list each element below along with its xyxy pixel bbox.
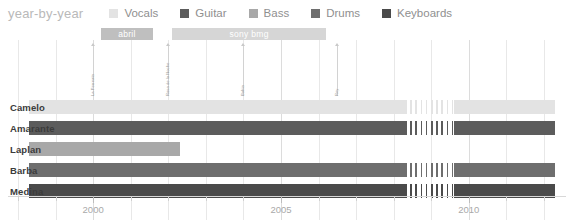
timeline-row[interactable]: Camelo [0,100,574,114]
axis-tick-1998 [18,196,19,201]
era-banner-sony-bmg[interactable]: sony bmg [172,28,326,40]
bar-segment [405,100,454,114]
legend-item-bass[interactable]: Bass [249,7,290,19]
chart-header: year-by-year Vocals Guitar Bass Drums Ke… [0,0,574,26]
bar-segment [29,163,405,177]
event-label: Rosa de la Noche [165,63,170,96]
bar-segment [29,121,405,135]
event-marker-Bahia[interactable]: Bahia [243,46,244,96]
event-arrow-icon [166,43,170,46]
legend-swatch-keyboards [382,9,391,18]
bar-segment [405,121,454,135]
legend-label-drums: Drums [326,7,360,19]
axis-tick-2004 [243,196,244,201]
bar-segment [454,121,555,135]
bar-segment [29,100,405,114]
event-label: Rey [334,89,339,96]
page-title: year-by-year [8,6,83,21]
legend-item-keyboards[interactable]: Keyboards [382,7,452,19]
axis-tick-2006 [319,196,320,201]
legend-label-keyboards: Keyboards [397,7,452,19]
axis-tick-2005 [281,196,282,203]
timeline-row[interactable]: Amarante [0,121,574,135]
timeline-row[interactable]: Barba [0,163,574,177]
axis-tick-2008 [394,196,395,201]
timeline-plot: abrilsony bmg La PerreataRosa de la Noch… [0,26,574,220]
axis-tick-2007 [356,196,357,201]
legend-item-guitar[interactable]: Guitar [180,7,226,19]
legend-swatch-bass [249,9,258,18]
axis-line [8,196,566,197]
event-marker-La-Perreata[interactable]: La Perreata [93,46,94,96]
event-label: Bahia [240,85,245,96]
legend-swatch-guitar [180,9,189,18]
legend-swatch-drums [311,9,320,18]
legend-label-vocals: Vocals [124,7,158,19]
axis-tick-label-2005: 2005 [270,204,291,215]
era-banner-abril[interactable]: abril [101,28,154,40]
axis-tick-1999 [56,196,57,201]
legend-label-bass: Bass [264,7,290,19]
event-arrow-icon [335,43,339,46]
axis-tick-2010 [469,196,470,203]
legend-swatch-vocals [109,9,118,18]
event-arrow-icon [241,43,245,46]
legend-item-drums[interactable]: Drums [311,7,360,19]
axis-tick-2011 [506,196,507,201]
axis-tick-2003 [206,196,207,201]
event-marker-Rey[interactable]: Rey [337,46,338,96]
legend-label-guitar: Guitar [195,7,226,19]
axis-tick-label-2010: 2010 [458,204,479,215]
event-label: La Perreata [90,74,95,96]
legend-item-vocals[interactable]: Vocals [109,7,158,19]
axis-tick-2009 [431,196,432,201]
axis-tick-2001 [131,196,132,201]
axis-tick-2000 [93,196,94,203]
bar-segment [405,163,454,177]
bar-segment [29,142,179,156]
event-marker-Rosa-de-la-Noche[interactable]: Rosa de la Noche [168,46,169,96]
x-axis: 200020052010 [0,196,574,220]
event-arrow-icon [91,43,95,46]
bar-segment [454,100,555,114]
timeline-row[interactable]: Laplan [0,142,574,156]
axis-tick-2012 [544,196,545,201]
legend: Vocals Guitar Bass Drums Keyboards [109,7,452,19]
axis-tick-label-2000: 2000 [83,204,104,215]
bar-segment [454,163,555,177]
axis-tick-2002 [168,196,169,201]
